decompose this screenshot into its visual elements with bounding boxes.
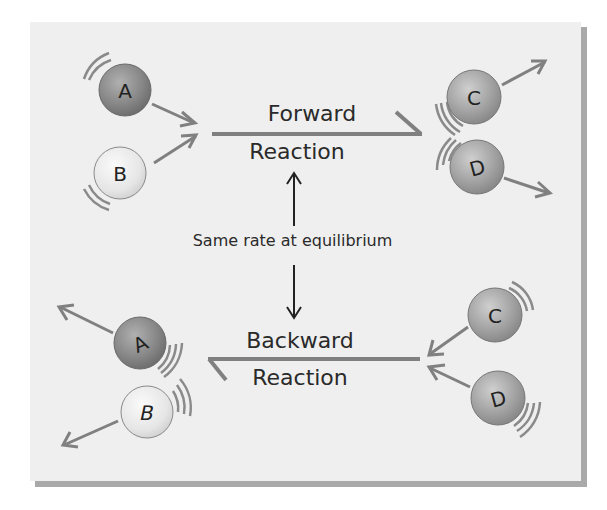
backward-label-line2: Reaction xyxy=(225,367,375,389)
forward-label-line2: Reaction xyxy=(227,141,367,163)
down-arrow-icon xyxy=(287,265,301,318)
molecule-c-bottom: C xyxy=(468,288,522,342)
arrow-icon xyxy=(59,305,113,333)
molecule-d-top: D xyxy=(450,140,504,194)
arrow-icon xyxy=(429,327,468,355)
molecule-b-top: B xyxy=(94,147,146,199)
arrow-icon xyxy=(154,135,196,163)
arrow-icon xyxy=(63,421,118,447)
svg-text:C: C xyxy=(488,304,502,328)
molecule-a-top: A xyxy=(99,64,151,116)
arrow-icon xyxy=(429,365,470,387)
svg-text:B: B xyxy=(113,162,127,186)
svg-text:C: C xyxy=(467,86,481,110)
molecule-a-bottom: A xyxy=(114,317,166,369)
arrow-icon xyxy=(152,104,195,126)
molecule-b-bottom: B xyxy=(121,386,173,438)
forward-label-line1: Forward xyxy=(242,103,382,125)
molecule-c-top: C xyxy=(447,70,501,124)
arrow-icon xyxy=(504,178,550,197)
equilibrium-label: Same rate at equilibrium xyxy=(170,233,415,249)
up-arrow-icon xyxy=(287,173,301,226)
svg-text:A: A xyxy=(118,79,132,103)
backward-label-line1: Backward xyxy=(225,330,375,352)
arrow-icon xyxy=(502,61,545,85)
reaction-diagram: A B C D A B C D xyxy=(0,0,607,510)
molecule-d-bottom: D xyxy=(471,371,525,425)
